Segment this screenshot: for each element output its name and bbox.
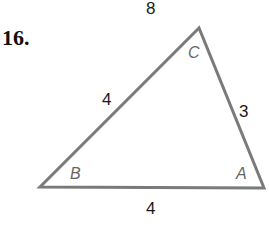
label-top-8: 8 [146,0,155,18]
vertex-label-c: C [188,44,200,61]
vertex-label-b: B [70,165,81,182]
triangle-abc [40,28,264,188]
vertex-label-a: A [235,165,247,182]
label-side-bc: 4 [102,90,111,109]
label-side-ca: 3 [239,102,248,121]
triangle-diagram: 8 4 3 4 C B A [0,0,269,225]
label-side-ab: 4 [146,199,155,218]
